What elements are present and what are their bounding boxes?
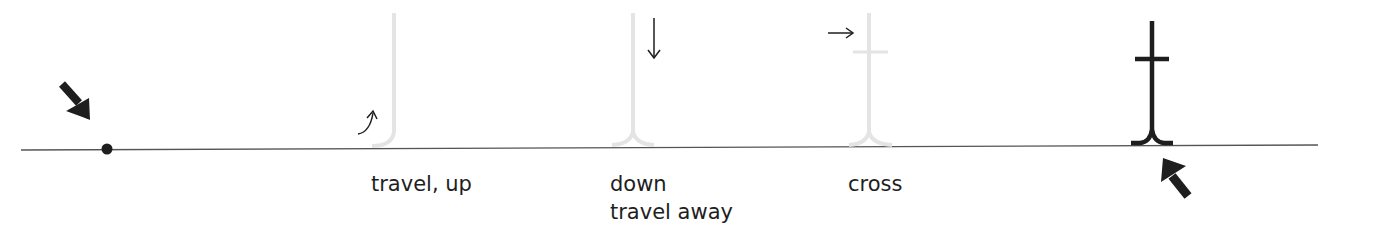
- step-3-label: cross: [848, 171, 902, 197]
- bold-arrow-up-left-icon: [1161, 158, 1188, 196]
- step-1-label: travel, up: [371, 171, 472, 197]
- ghost-stroke-down: [612, 13, 654, 145]
- arrow-right-icon: [828, 28, 853, 38]
- bold-arrow-down-right-icon: [62, 84, 90, 120]
- ghost-stroke-cross: [849, 13, 892, 145]
- ghost-stroke-travel-up: [372, 13, 394, 146]
- arrow-down-icon: [648, 18, 660, 58]
- step-2-label-line-1: down: [610, 171, 733, 197]
- completed-letter-glyph: [1131, 21, 1173, 143]
- baseline: [21, 145, 1318, 150]
- step-2-label: down travel away: [610, 171, 733, 225]
- start-dot: [102, 144, 113, 155]
- curved-arrow-up-icon: [358, 111, 377, 134]
- step-2-label-line-2: travel away: [610, 199, 733, 225]
